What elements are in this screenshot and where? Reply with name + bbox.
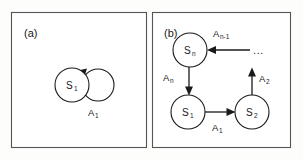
ellipsis-label-b: ... xyxy=(253,44,264,56)
action-label-b-a2-subscript: 2 xyxy=(266,78,270,85)
action-label-b-a1-subscript: 1 xyxy=(219,127,223,134)
state-node-b-sn-label: S xyxy=(184,45,191,56)
action-label-b-an-minus-1: A xyxy=(213,28,220,39)
action-label-b-an: A xyxy=(163,72,170,83)
state-node-b-s1-subscript: 1 xyxy=(190,112,194,119)
state-node-b-sn-subscript: n xyxy=(192,50,196,57)
state-node-b-s2-label: S xyxy=(246,107,253,118)
action-label-a-a1: A xyxy=(88,107,95,118)
state-node-b-s2-subscript: 2 xyxy=(254,112,258,119)
action-label-b-a1: A xyxy=(212,122,219,133)
action-label-b-an-minus-1-subscript: n-1 xyxy=(220,33,230,40)
panel-a-tag: (a) xyxy=(24,27,37,39)
state-transition-diagram: (a) S 1 A 1 (b) A n-1 ... xyxy=(0,0,303,161)
panel-b: (b) A n-1 ... A n A 1 A 2 S xyxy=(153,13,291,148)
action-label-b-an-subscript: n xyxy=(170,77,174,84)
state-node-b-s1-label: S xyxy=(182,107,189,118)
state-node-a-s1-subscript: 1 xyxy=(74,85,78,92)
figure-root: (a) S 1 A 1 (b) A n-1 ... xyxy=(0,0,303,161)
action-label-a-a1-subscript: 1 xyxy=(95,112,99,119)
state-node-a-s1-label: S xyxy=(66,80,73,91)
panel-b-tag: (b) xyxy=(164,27,177,39)
action-label-b-a2: A xyxy=(259,73,266,84)
panel-a: (a) S 1 A 1 xyxy=(12,13,147,148)
